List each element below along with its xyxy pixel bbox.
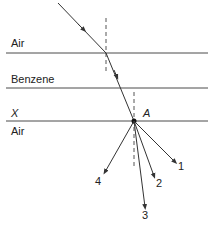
medium-label-air-bottom: Air <box>11 126 24 137</box>
point-label-a: A <box>143 108 150 119</box>
incident-ray-arrow <box>78 24 84 30</box>
ray-1 <box>134 121 175 162</box>
surface-label-x: X <box>11 108 18 119</box>
benzene-ray <box>106 53 134 121</box>
ray-label-1: 1 <box>178 161 184 172</box>
ray-label-2: 2 <box>156 178 162 189</box>
ray-2 <box>134 121 154 176</box>
refraction-diagram <box>0 0 208 227</box>
ray-label-4: 4 <box>95 176 101 187</box>
ray-4 <box>105 121 134 172</box>
medium-label-benzene: Benzene <box>11 74 54 85</box>
ray-label-3: 3 <box>142 210 148 221</box>
ray-3 <box>134 121 145 207</box>
medium-label-air-top: Air <box>11 38 24 49</box>
